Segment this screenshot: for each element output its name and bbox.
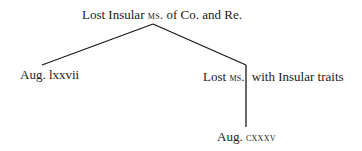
edge-root-to-left-leaf xyxy=(42,24,153,65)
node-label-numeral: cxxxv xyxy=(246,130,276,144)
node-label-post: with Insular traits xyxy=(252,69,344,84)
stemma-diagram: Lost Insular ms. of Co. and Re. Aug. lxx… xyxy=(0,0,362,151)
node-lost-insular-ms: Lost Insular ms. of Co. and Re. xyxy=(82,8,242,22)
edge-root-to-mid-node xyxy=(153,24,246,65)
node-label-pre: Aug. xyxy=(217,129,246,144)
node-lost-ms-with-insular-traits: Lost ms.with Insular traits xyxy=(203,70,344,84)
node-label-post: of Co. and Re. xyxy=(163,7,242,22)
node-label-pre: Lost xyxy=(203,69,229,84)
node-aug-lxxvii: Aug. lxxvii xyxy=(20,68,79,82)
node-label: Aug. lxxvii xyxy=(20,67,79,82)
node-aug-cxxxv: Aug. cxxxv xyxy=(217,130,276,144)
node-label-pre: Lost Insular xyxy=(82,7,148,22)
node-label-ms-abbrev: ms. xyxy=(148,8,163,22)
node-label-ms-abbrev: ms. xyxy=(229,70,244,84)
